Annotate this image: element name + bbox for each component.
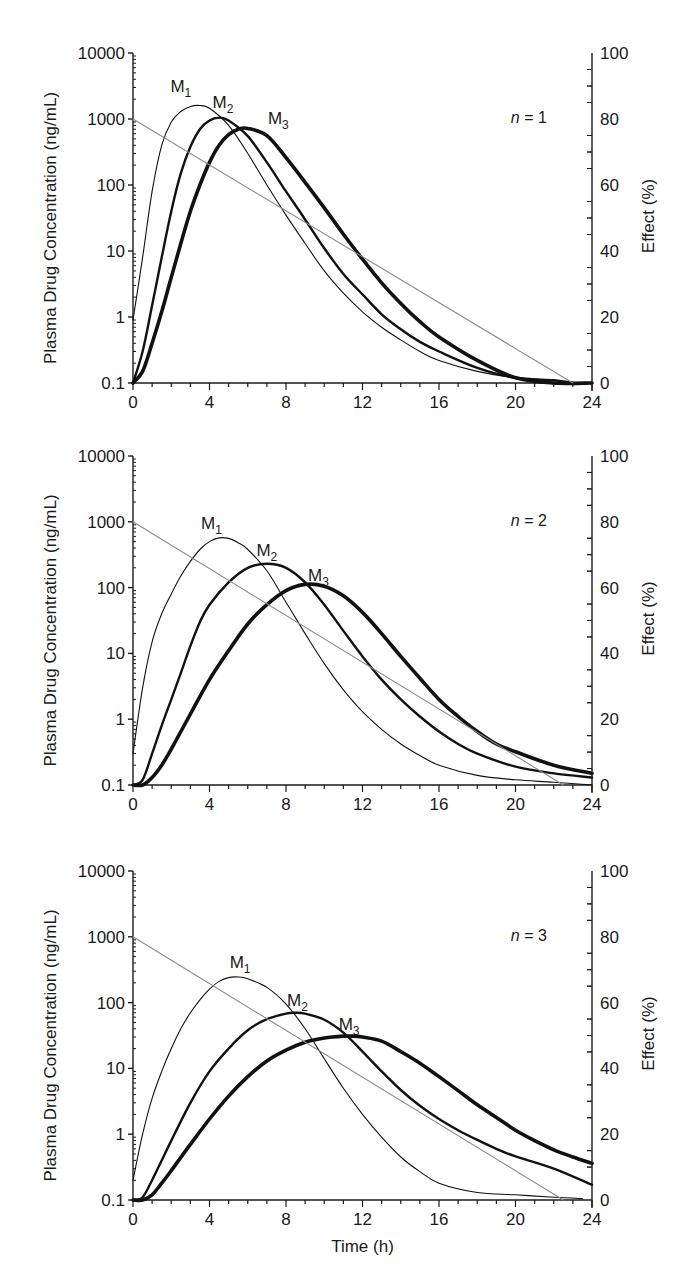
x-tick-label: 16 [430, 1210, 449, 1229]
curve-label-m1: M1 [230, 953, 251, 976]
curve-m2 [133, 1013, 592, 1200]
x-tick-label: 8 [281, 393, 290, 412]
chart-figure: 0.11101001000100000204060801000481216202… [0, 0, 698, 1288]
right-tick-label: 40 [600, 644, 619, 663]
right-tick-label: 0 [600, 374, 609, 393]
x-tick-label: 24 [583, 795, 602, 814]
curve-label-m2: M2 [256, 541, 277, 564]
effect-line [133, 522, 563, 785]
y-tick-label: 10 [106, 242, 125, 261]
right-axis-title: Effect (%) [639, 581, 658, 655]
right-tick-label: 20 [600, 308, 619, 327]
y-tick-label: 1000 [87, 928, 125, 947]
x-tick-label: 24 [583, 1210, 602, 1229]
y-tick-label: 10000 [78, 44, 125, 63]
right-tick-label: 40 [600, 242, 619, 261]
chart-panel-1: 0.11101001000100000204060801000481216202… [41, 44, 658, 412]
y-tick-label: 0.1 [101, 776, 125, 795]
right-tick-label: 20 [600, 710, 619, 729]
right-tick-label: 60 [600, 176, 619, 195]
x-tick-label: 20 [506, 1210, 525, 1229]
x-tick-label: 0 [128, 795, 137, 814]
x-tick-label: 12 [353, 393, 372, 412]
x-tick-label: 4 [205, 1210, 214, 1229]
y-tick-label: 10 [106, 644, 125, 663]
x-tick-label: 12 [353, 1210, 372, 1229]
effect-line [133, 119, 573, 383]
y-tick-label: 10000 [78, 447, 125, 466]
right-tick-label: 60 [600, 994, 619, 1013]
n-value-label: n = 3 [511, 927, 547, 944]
y-tick-label: 0.1 [101, 1191, 125, 1210]
effect-line [133, 937, 563, 1200]
x-tick-label: 16 [430, 795, 449, 814]
right-tick-label: 60 [600, 579, 619, 598]
x-axis-title: Time (h) [331, 1237, 394, 1256]
y-tick-label: 100 [97, 579, 125, 598]
right-tick-label: 0 [600, 776, 609, 795]
y-tick-label: 0.1 [101, 374, 125, 393]
curve-m3 [133, 128, 592, 383]
y-tick-label: 1 [116, 710, 125, 729]
y-tick-label: 1000 [87, 110, 125, 129]
right-tick-label: 100 [600, 44, 628, 63]
right-tick-label: 80 [600, 513, 619, 532]
x-tick-label: 24 [583, 393, 602, 412]
right-tick-label: 80 [600, 110, 619, 129]
right-axis-title: Effect (%) [639, 179, 658, 253]
n-value-label: n = 1 [511, 109, 547, 126]
y-tick-label: 1 [116, 1125, 125, 1144]
curve-m2 [133, 564, 592, 785]
x-tick-label: 12 [353, 795, 372, 814]
curve-m1 [133, 538, 592, 785]
curve-m3 [133, 584, 592, 785]
curve-label-m2: M2 [287, 991, 308, 1014]
y-tick-label: 100 [97, 994, 125, 1013]
right-tick-label: 40 [600, 1059, 619, 1078]
curve-label-m3: M3 [268, 109, 289, 132]
curve-label-m1: M1 [170, 77, 191, 100]
chart-panel-2: 0.11101001000100000204060801000481216202… [41, 447, 658, 814]
y-tick-label: 10 [106, 1059, 125, 1078]
right-tick-label: 100 [600, 447, 628, 466]
right-tick-label: 0 [600, 1191, 609, 1210]
n-value-label: n = 2 [511, 512, 547, 529]
left-axis-title: Plasma Drug Concentration (ng/mL) [41, 92, 60, 364]
y-tick-label: 1 [116, 308, 125, 327]
x-tick-label: 0 [128, 1210, 137, 1229]
right-tick-label: 20 [600, 1125, 619, 1144]
x-tick-label: 20 [506, 795, 525, 814]
left-axis-title: Plasma Drug Concentration (ng/mL) [41, 494, 60, 766]
left-axis-title: Plasma Drug Concentration (ng/mL) [41, 909, 60, 1181]
right-tick-label: 100 [600, 862, 628, 881]
x-tick-label: 8 [281, 1210, 290, 1229]
x-tick-label: 20 [506, 393, 525, 412]
x-tick-label: 4 [205, 393, 214, 412]
y-tick-label: 1000 [87, 513, 125, 532]
curve-label-m1: M1 [201, 514, 222, 537]
x-tick-label: 8 [281, 795, 290, 814]
x-tick-label: 0 [128, 393, 137, 412]
y-tick-label: 100 [97, 176, 125, 195]
right-tick-label: 80 [600, 928, 619, 947]
right-axis-title: Effect (%) [639, 996, 658, 1070]
x-tick-label: 4 [205, 795, 214, 814]
x-tick-label: 16 [430, 393, 449, 412]
chart-panel-3: 0.11101001000100000204060801000481216202… [41, 862, 658, 1256]
y-tick-label: 10000 [78, 862, 125, 881]
